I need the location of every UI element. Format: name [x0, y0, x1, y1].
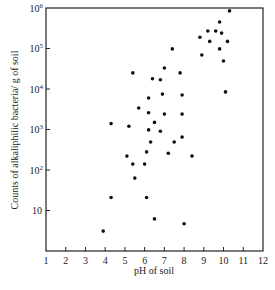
data-point: [153, 121, 157, 125]
data-point: [131, 162, 135, 166]
data-point: [171, 47, 175, 51]
data-point: [131, 71, 135, 75]
data-point: [147, 111, 151, 115]
data-point: [190, 154, 194, 158]
data-point: [180, 93, 184, 97]
data-point: [220, 31, 224, 35]
x-tick-label: 8: [182, 255, 187, 266]
data-point: [206, 29, 210, 33]
data-point: [143, 162, 147, 166]
x-tick-label: 12: [258, 255, 268, 266]
y-axis-title: Counts of alkaliphilic bacteria/ g of so…: [9, 50, 20, 209]
scatter-chart: 123456789101112 10102103104105106 pH of …: [0, 0, 275, 290]
data-point: [161, 92, 165, 96]
data-point: [125, 154, 129, 158]
data-point: [198, 35, 202, 39]
data-point: [224, 90, 228, 94]
plot-frame: [46, 8, 263, 251]
data-point: [127, 125, 131, 129]
data-point: [163, 112, 167, 116]
data-point: [214, 29, 218, 33]
plot-border: [46, 8, 263, 251]
data-point: [182, 222, 186, 226]
y-tick-label: 104: [30, 83, 44, 95]
data-point: [133, 176, 137, 180]
data-point: [145, 150, 149, 154]
x-tick-label: 5: [122, 255, 127, 266]
x-tick-label: 2: [63, 255, 68, 266]
data-point: [109, 122, 113, 126]
y-tick-label: 103: [30, 123, 44, 135]
y-tick-label: 102: [30, 164, 44, 176]
data-point: [222, 59, 226, 63]
x-axis: 123456789101112: [44, 247, 269, 266]
x-tick-label: 10: [219, 255, 229, 266]
x-tick-label: 11: [238, 255, 248, 266]
y-tick-label: 106: [30, 2, 44, 14]
data-point: [153, 217, 157, 221]
data-point: [180, 112, 184, 116]
data-point: [147, 128, 151, 132]
data-point: [180, 135, 184, 139]
data-points: [101, 9, 231, 233]
data-point: [226, 40, 230, 44]
data-point: [159, 78, 163, 82]
x-axis-title: pH of soil: [134, 265, 174, 276]
x-tick-label: 4: [103, 255, 108, 266]
data-point: [109, 196, 113, 200]
data-point: [149, 140, 153, 144]
x-tick-label: 1: [44, 255, 49, 266]
data-point: [208, 40, 212, 44]
data-point: [178, 71, 182, 75]
data-point: [218, 20, 222, 24]
data-point: [218, 47, 222, 51]
x-tick-label: 9: [201, 255, 206, 266]
data-point: [163, 66, 167, 70]
data-point: [137, 106, 141, 110]
data-point: [172, 140, 176, 144]
x-tick-label: 3: [83, 255, 88, 266]
data-point: [101, 229, 105, 233]
data-point: [147, 96, 151, 100]
y-tick-label: 10: [32, 205, 42, 216]
data-point: [167, 151, 171, 155]
data-point: [145, 196, 149, 200]
y-tick-label: 105: [30, 42, 44, 54]
data-point: [151, 77, 155, 81]
data-point: [159, 129, 163, 133]
data-point: [200, 53, 204, 57]
data-point: [228, 9, 232, 13]
y-axis: 10102103104105106: [30, 2, 51, 217]
